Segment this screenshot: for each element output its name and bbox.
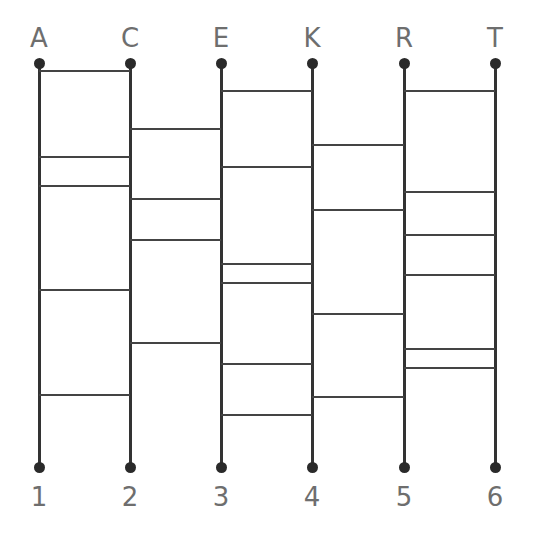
horizontal-rung bbox=[39, 70, 130, 72]
bottom-dot-icon bbox=[216, 462, 227, 473]
horizontal-rung bbox=[221, 166, 312, 168]
horizontal-rung bbox=[312, 313, 404, 315]
bottom-dot-icon bbox=[399, 462, 410, 473]
bottom-dot-icon bbox=[490, 462, 501, 473]
vertical-line bbox=[403, 63, 406, 467]
top-label: A bbox=[19, 25, 59, 51]
horizontal-rung bbox=[404, 348, 495, 350]
vertical-line bbox=[311, 63, 314, 467]
vertical-line bbox=[494, 63, 497, 467]
horizontal-rung bbox=[39, 185, 130, 187]
horizontal-rung bbox=[130, 239, 221, 241]
horizontal-rung bbox=[221, 414, 312, 416]
top-dot-icon bbox=[125, 58, 136, 69]
horizontal-rung bbox=[39, 394, 130, 396]
top-dot-icon bbox=[399, 58, 410, 69]
bottom-label: 4 bbox=[292, 484, 332, 510]
horizontal-rung bbox=[39, 156, 130, 158]
bottom-dot-icon bbox=[34, 462, 45, 473]
horizontal-rung bbox=[221, 282, 312, 284]
top-dot-icon bbox=[216, 58, 227, 69]
bottom-label: 1 bbox=[19, 484, 59, 510]
horizontal-rung bbox=[404, 234, 495, 236]
horizontal-rung bbox=[221, 263, 312, 265]
top-label: R bbox=[384, 25, 424, 51]
vertical-line bbox=[129, 63, 132, 467]
top-label: K bbox=[292, 25, 332, 51]
horizontal-rung bbox=[404, 367, 495, 369]
horizontal-rung bbox=[221, 363, 312, 365]
vertical-line bbox=[220, 63, 223, 467]
horizontal-rung bbox=[312, 396, 404, 398]
bottom-dot-icon bbox=[307, 462, 318, 473]
horizontal-rung bbox=[39, 289, 130, 291]
horizontal-rung bbox=[130, 198, 221, 200]
bottom-label: 6 bbox=[475, 484, 515, 510]
horizontal-rung bbox=[130, 342, 221, 344]
top-dot-icon bbox=[34, 58, 45, 69]
bottom-label: 5 bbox=[384, 484, 424, 510]
horizontal-rung bbox=[404, 274, 495, 276]
bottom-label: 2 bbox=[110, 484, 150, 510]
top-label: T bbox=[475, 25, 515, 51]
vertical-line bbox=[38, 63, 41, 467]
horizontal-rung bbox=[130, 128, 221, 130]
horizontal-rung bbox=[404, 191, 495, 193]
ladder-diagram: A1C2E3K4R5T6 bbox=[0, 0, 533, 535]
top-dot-icon bbox=[307, 58, 318, 69]
top-dot-icon bbox=[490, 58, 501, 69]
bottom-label: 3 bbox=[201, 484, 241, 510]
top-label: C bbox=[110, 25, 150, 51]
horizontal-rung bbox=[404, 90, 495, 92]
horizontal-rung bbox=[312, 209, 404, 211]
top-label: E bbox=[201, 25, 241, 51]
horizontal-rung bbox=[312, 144, 404, 146]
horizontal-rung bbox=[221, 90, 312, 92]
bottom-dot-icon bbox=[125, 462, 136, 473]
